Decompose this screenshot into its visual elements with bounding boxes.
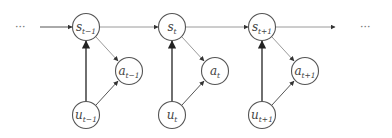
node-s-next: st+1 [249, 14, 276, 41]
node-a-prev: at−1 [116, 58, 143, 85]
edge-s-next-to-a-next [272, 37, 294, 61]
ellipsis-left: ··· [15, 21, 26, 34]
node-a-cur: at [202, 58, 229, 85]
node-s-prev: st−1 [73, 14, 100, 41]
node-u-cur: ut [159, 102, 186, 129]
edge-u-cur-to-a-cur [182, 81, 204, 105]
node-u-prev: ut−1 [73, 102, 100, 129]
dynamic-bayesian-network-diagram: ··· ··· st−1 at−1 ut−1 st at ut [0, 0, 392, 138]
edge-u-prev-to-a-prev [96, 81, 118, 105]
node-u-next: ut+1 [249, 102, 276, 129]
edge-u-next-to-a-next [272, 81, 294, 105]
node-a-next: at+1 [292, 58, 319, 85]
ellipsis-right: ··· [360, 21, 371, 34]
edge-s-prev-to-a-prev [96, 37, 118, 61]
node-s-cur: st [159, 14, 186, 41]
edge-s-cur-to-a-cur [182, 37, 204, 61]
